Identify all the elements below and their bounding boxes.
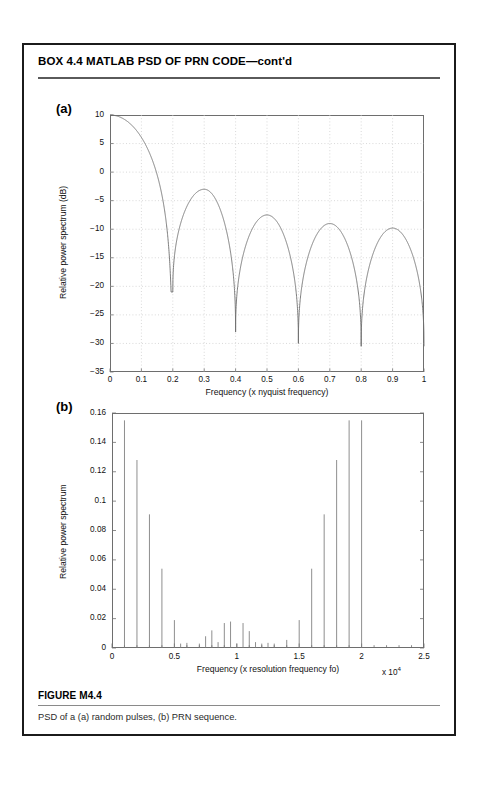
box-title: BOX 4.4 MATLAB PSD OF PRN CODE—cont'd	[38, 55, 440, 67]
box-title-divider	[38, 77, 440, 79]
chart-b-x-tick-label: 2	[346, 652, 378, 661]
chart-b-x-tick-label: 2.5	[408, 652, 440, 661]
figure-number: FIGURE M4.4	[38, 690, 440, 701]
figure-caption-block: FIGURE M4.4 PSD of a (a) random pulses, …	[38, 690, 440, 722]
chart-b-y-tick-label: 0.16	[70, 408, 106, 417]
chart-b-exponent-power: 4	[397, 665, 400, 672]
box-header: BOX 4.4 MATLAB PSD OF PRN CODE—cont'd	[38, 55, 440, 85]
figure-caption-divider	[38, 705, 440, 706]
chart-b-x-tick-label: 1	[221, 652, 253, 661]
chart-b-y-tick-label: 0.06	[70, 554, 106, 563]
chart-b-x-tick-label: 1.5	[283, 652, 315, 661]
chart-b-stem-series	[124, 420, 361, 648]
chart-b-x-axis-label: Frequency (x resolution frequency fo)	[112, 664, 424, 674]
chart-b-y-tick-label: 0.08	[70, 525, 106, 534]
figure-area: (a) Relative power spectrum (dB) −35−30−…	[24, 93, 454, 693]
chart-b-x-axis-exponent: x 104	[382, 665, 401, 677]
chart-b-canvas	[24, 93, 454, 693]
chart-b-y-tick-label: 0.14	[70, 437, 106, 446]
figure-caption-text: PSD of a (a) random pulses, (b) PRN sequ…	[38, 712, 440, 722]
chart-b-y-tick-label: 0.12	[70, 466, 106, 475]
chart-b-x-tick-label: 0	[96, 652, 128, 661]
chart-b-ticks	[112, 413, 424, 648]
chart-b-y-tick-label: 0.1	[70, 496, 106, 505]
chart-b-y-tick-label: 0.02	[70, 613, 106, 622]
box-frame: BOX 4.4 MATLAB PSD OF PRN CODE—cont'd (a…	[22, 43, 456, 736]
chart-b-exponent-base: x 10	[382, 668, 397, 677]
chart-b-y-tick-label: 0.04	[70, 584, 106, 593]
chart-b-y-tick-label: 0	[70, 643, 106, 652]
chart-b-x-tick-label: 0.5	[158, 652, 190, 661]
